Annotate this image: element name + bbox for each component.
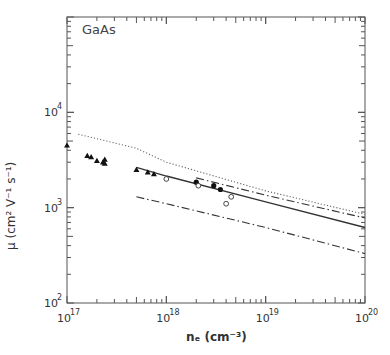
open-circle-marker <box>224 201 229 206</box>
x-tick-exponent: 19 <box>269 308 279 317</box>
y-tick-exponent: 2 <box>57 293 62 302</box>
x-axis-label: nₑ (cm⁻³) <box>186 330 247 344</box>
chart-title: GaAs <box>82 22 116 37</box>
dotted-curve <box>78 134 365 214</box>
dashdot-curve <box>136 197 365 254</box>
open-circle-marker <box>164 177 169 182</box>
x-tick-exponent: 20 <box>368 308 378 317</box>
y-axis-label: μ (cm² V⁻¹ s⁻¹) <box>4 120 18 250</box>
y-tick-label: 10 <box>44 297 58 310</box>
curves <box>78 134 365 253</box>
triangle-marker <box>102 157 108 162</box>
dashdot-curve <box>196 178 365 218</box>
plot-frame <box>67 17 365 303</box>
y-tick-label: 10 <box>44 106 58 119</box>
mobility-chart: 1017101810191020102103104 <box>0 0 390 355</box>
y-tick-exponent: 4 <box>57 102 62 111</box>
tick-labels: 1017101810191020102103104 <box>44 102 378 325</box>
axis-ticks <box>67 17 365 303</box>
x-tick-exponent: 18 <box>169 308 179 317</box>
triangle-marker <box>94 158 100 163</box>
solid-curve <box>136 167 365 227</box>
x-tick-label: 10 <box>57 312 71 325</box>
x-tick-label: 10 <box>156 312 170 325</box>
y-tick-exponent: 3 <box>57 198 62 207</box>
filled-circle-marker <box>218 187 223 192</box>
data-points <box>64 142 234 206</box>
open-circle-marker <box>229 194 234 199</box>
y-tick-label: 10 <box>44 202 58 215</box>
x-tick-label: 10 <box>256 312 270 325</box>
triangle-marker <box>64 142 70 147</box>
filled-circle-marker <box>211 183 216 188</box>
open-circle-marker <box>196 183 201 188</box>
x-tick-label: 10 <box>355 312 369 325</box>
x-tick-exponent: 17 <box>70 308 80 317</box>
